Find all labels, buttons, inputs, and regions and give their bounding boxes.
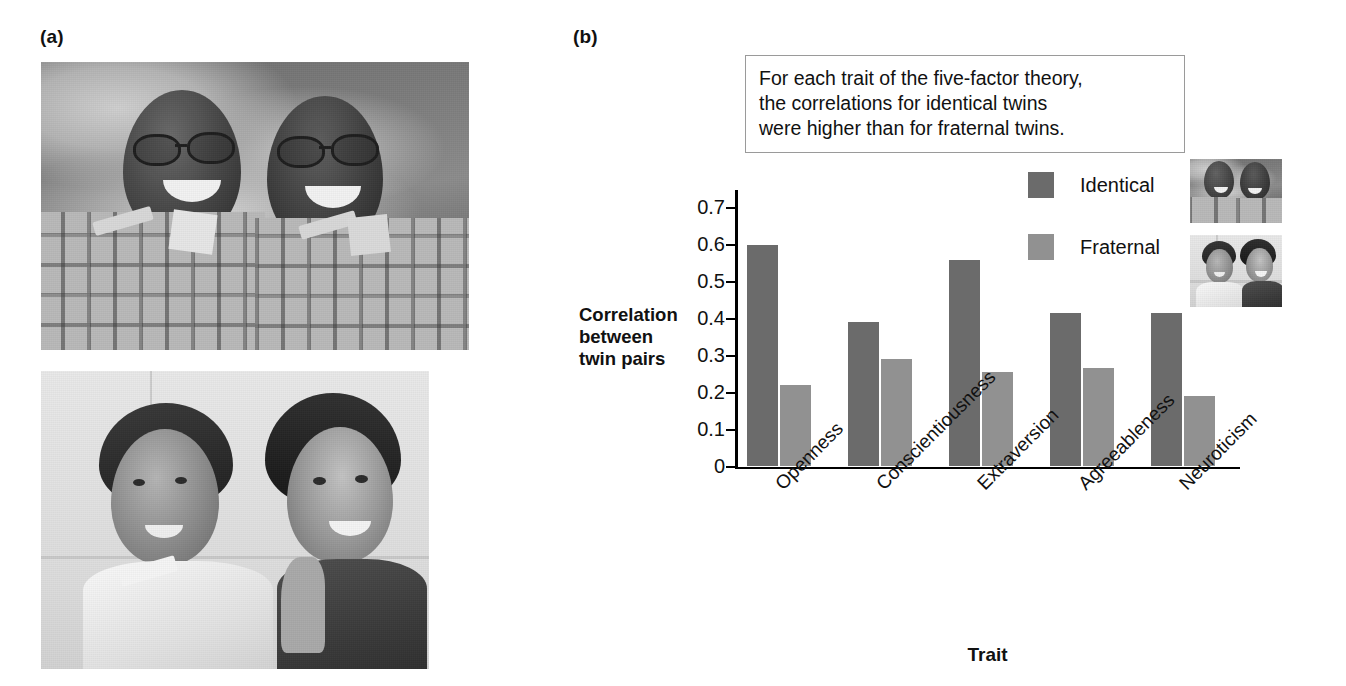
y-axis-title: Correlationbetweentwin pairs — [579, 304, 719, 370]
legend-item-identical[interactable]: Identical — [1028, 172, 1155, 198]
fraternal-twins-photo — [41, 371, 429, 669]
legend-thumb-fraternal — [1190, 235, 1282, 307]
y-tick-label-0.5: 0.5 — [665, 271, 725, 291]
legend-swatch-identical — [1028, 172, 1054, 198]
bar-conscientiousness-identical — [848, 322, 879, 466]
y-tick-0.4 — [726, 318, 735, 320]
y-tick-label-0.2: 0.2 — [665, 382, 725, 402]
y-tick-0.5 — [726, 281, 735, 283]
panel-a-label: (a) — [40, 26, 64, 48]
x-axis-title: Trait — [735, 644, 1240, 666]
y-tick-label-0.1: 0.1 — [665, 419, 725, 439]
bar-neuroticism-identical — [1151, 313, 1182, 466]
bars-layer — [735, 190, 1240, 466]
legend-label-fraternal: Fraternal — [1080, 236, 1160, 259]
y-tick-0.7 — [726, 207, 735, 209]
y-tick-0.2 — [726, 392, 735, 394]
legend-swatch-fraternal — [1028, 234, 1054, 260]
bar-openness-identical — [747, 245, 778, 466]
legend-thumb-identical — [1190, 159, 1282, 223]
plot-area: 00.10.20.30.40.50.60.7 Correlationbetwee… — [573, 22, 1333, 672]
y-tick-0.1 — [726, 429, 735, 431]
bar-agreeableness-identical — [1050, 313, 1081, 466]
identical-twins-photo — [41, 62, 469, 350]
y-axis-title-line: between — [579, 326, 719, 348]
y-tick-label-0: 0 — [665, 456, 725, 476]
y-tick-0.3 — [726, 355, 735, 357]
twin-correlation-chart: For each trait of the five-factor theory… — [573, 22, 1333, 672]
legend-label-identical: Identical — [1080, 174, 1155, 197]
legend-item-fraternal[interactable]: Fraternal — [1028, 234, 1160, 260]
y-axis-title-line: Correlation — [579, 304, 719, 326]
y-tick-label-0.7: 0.7 — [665, 197, 725, 217]
twin-study-figure: (a) — [0, 0, 1346, 686]
y-axis-title-line: twin pairs — [579, 348, 719, 370]
y-tick-0 — [726, 466, 735, 468]
bar-extraversion-identical — [949, 260, 980, 466]
y-tick-0.6 — [726, 244, 735, 246]
y-tick-label-0.6: 0.6 — [665, 234, 725, 254]
